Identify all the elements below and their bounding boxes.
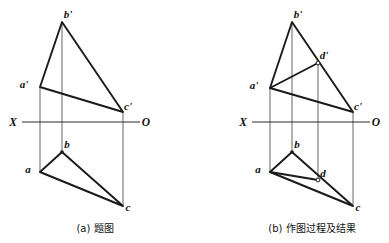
panel-a: XOb'a'c'bac(a) 题图	[8, 8, 150, 234]
axis-label-x: X	[238, 116, 247, 128]
point-label-a: a	[25, 163, 31, 175]
point-label-a-prime: a'	[20, 78, 29, 90]
lower-triangle	[40, 152, 123, 206]
panel-caption: (b) 作图过程及结果	[268, 222, 355, 234]
point-label-c-prime: c'	[124, 100, 132, 112]
point-label-c: c	[126, 201, 131, 213]
axis-label-o: O	[142, 116, 150, 128]
vertex-marker-b	[290, 150, 294, 154]
axis-label-o: O	[372, 116, 380, 128]
point-label-b: b	[64, 138, 70, 150]
panel-b: XOb'd'a'c'badc(b) 作图过程及结果	[238, 8, 380, 234]
projection-figure: XOb'a'c'bac(a) 题图XOb'd'a'c'badc(b) 作图过程及…	[0, 0, 389, 243]
point-label-d-prime: d'	[320, 49, 329, 61]
point-label-b: b	[294, 138, 300, 150]
point-label-b-prime: b'	[64, 8, 73, 20]
panel-caption: (a) 题图	[76, 223, 113, 234]
point-label-a-prime: a'	[250, 79, 259, 91]
point-label-c: c	[356, 201, 361, 213]
point-label-d: d	[320, 167, 326, 179]
vertex-marker-b	[60, 150, 64, 154]
axis-label-x: X	[8, 116, 17, 128]
point-label-a: a	[255, 163, 261, 175]
upper-triangle	[40, 22, 123, 112]
point-label-c-prime: c'	[354, 100, 362, 112]
edge-a-d	[270, 172, 318, 180]
figure-root: XOb'a'c'bac(a) 题图XOb'd'a'c'badc(b) 作图过程及…	[0, 0, 389, 243]
vertex-marker-d-prime	[316, 61, 320, 65]
point-label-b-prime: b'	[294, 8, 303, 20]
